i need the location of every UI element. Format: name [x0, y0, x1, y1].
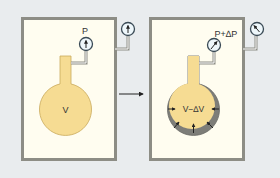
left-pressure-label: P: [82, 26, 88, 36]
left-pressure-gauge-icon: [80, 38, 93, 51]
left-outer-gauge-icon: [122, 23, 135, 36]
right-pressure-gauge-icon: [208, 39, 221, 52]
right-pressure-label: P+∆P: [215, 29, 238, 39]
left-panel: V P: [23, 19, 135, 160]
right-flask-label: V−∆V: [183, 104, 205, 114]
right-outer-gauge-icon: [251, 23, 264, 36]
left-flask-label: V: [62, 105, 68, 115]
right-panel: V−∆V P+∆P: [151, 19, 264, 160]
compressibility-diagram: V P V−∆V: [0, 0, 280, 178]
